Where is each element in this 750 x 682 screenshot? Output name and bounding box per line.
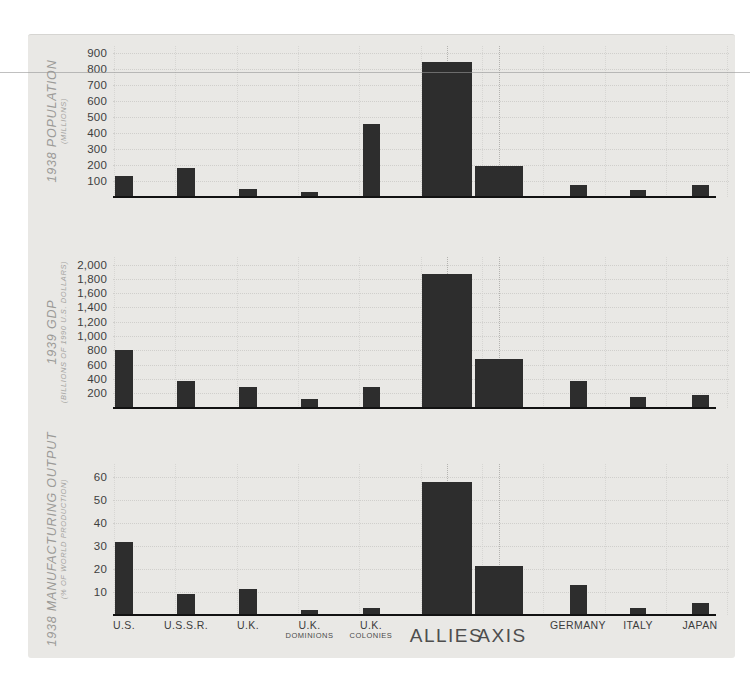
y-axis-title-text: 1938 POPULATION xyxy=(45,60,59,183)
bar-gdp-uk-colonies xyxy=(363,387,380,407)
x-category-label-text: JAPAN xyxy=(682,619,717,631)
bar-gdp-ussr xyxy=(177,381,195,407)
x-category-sublabel-text: DOMINIONS xyxy=(286,631,334,640)
bar-population-ussr xyxy=(177,168,195,197)
y-axis-title-population: 1938 POPULATION(MILLIONS) xyxy=(45,60,68,183)
bar-manufacturing-axis xyxy=(475,566,523,614)
bar-gdp-us xyxy=(115,350,133,408)
h-gridline xyxy=(113,265,729,266)
bar-gdp-allies xyxy=(422,274,472,407)
x-category-label-uk-colonies: U.K.COLONIES xyxy=(350,619,393,640)
ytick-label-population: 900 xyxy=(59,46,107,60)
group-label-axis: AXIS xyxy=(477,625,526,647)
y-axis-title-text: 1939 GDP xyxy=(45,300,59,365)
x-axis-line-population xyxy=(113,196,716,199)
x-category-label-text: ITALY xyxy=(623,619,653,631)
x-category-label-us: U.S. xyxy=(113,619,135,631)
bar-manufacturing-ussr xyxy=(177,594,195,615)
bar-manufacturing-us xyxy=(115,542,133,614)
y-axis-unit-text: (% OF WORLD PRODUCTION) xyxy=(59,479,68,599)
x-category-sublabel-text: COLONIES xyxy=(350,631,393,640)
h-gridline xyxy=(113,53,729,54)
bar-population-allies xyxy=(422,62,472,197)
x-category-label-ussr: U.S.S.R. xyxy=(164,619,208,631)
bar-manufacturing-germany xyxy=(570,585,587,615)
x-category-label-italy: ITALY xyxy=(623,619,653,631)
y-axis-title-text: 1938 MANUFACTURING OUTPUT xyxy=(45,432,59,647)
y-axis-unit-text: (MILLIONS) xyxy=(59,98,68,144)
x-category-label-japan: JAPAN xyxy=(682,619,717,631)
h-gridline xyxy=(113,477,729,478)
x-category-label-uk: U.K. xyxy=(237,619,259,631)
x-category-label-text: U.S. xyxy=(113,619,135,631)
bar-manufacturing-allies xyxy=(422,482,472,615)
bar-population-us xyxy=(115,176,133,197)
bar-gdp-uk xyxy=(239,387,257,408)
charts-container: 1002003004005006007008009001938 POPULATI… xyxy=(0,0,750,682)
x-category-label-text: GERMANY xyxy=(550,619,606,631)
x-axis-line-manufacturing xyxy=(113,614,716,617)
x-category-label-germany: GERMANY xyxy=(550,619,606,631)
page: 1002003004005006007008009001938 POPULATI… xyxy=(0,0,750,682)
x-category-label-text: U.K. xyxy=(360,619,382,631)
x-category-label-uk-dominions: U.K.DOMINIONS xyxy=(286,619,334,640)
y-axis-title-manufacturing: 1938 MANUFACTURING OUTPUT(% OF WORLD PRO… xyxy=(45,432,68,647)
bar-population-uk-colonies xyxy=(363,124,380,197)
x-category-label-text: U.K. xyxy=(298,619,320,631)
bar-gdp-axis xyxy=(475,359,523,408)
x-axis-line-gdp xyxy=(113,407,716,410)
group-label-allies: ALLIES xyxy=(410,625,483,647)
y-axis-unit-text: (BILLIONS OF 1990 U.S. DOLLARS) xyxy=(59,261,68,403)
x-category-label-text: U.S.S.R. xyxy=(164,619,208,631)
page-horizontal-rule xyxy=(0,72,750,73)
bar-manufacturing-uk xyxy=(239,589,257,614)
bar-population-axis xyxy=(475,166,523,196)
x-category-label-text: U.K. xyxy=(237,619,259,631)
y-axis-title-gdp: 1939 GDP(BILLIONS OF 1990 U.S. DOLLARS) xyxy=(45,261,68,403)
bar-gdp-germany xyxy=(570,381,587,407)
